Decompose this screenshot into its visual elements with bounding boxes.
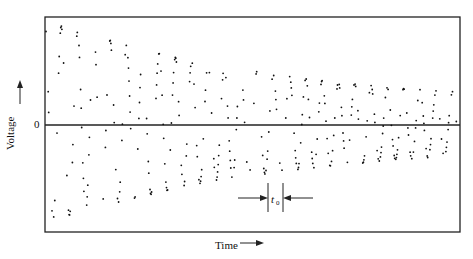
t0-label: t xyxy=(271,193,275,205)
period-marker: t 0 xyxy=(238,183,313,212)
y-axis-arrow-icon xyxy=(17,80,23,104)
t0-subscript: 0 xyxy=(276,199,280,207)
damped-oscillation-chart: t 0 xyxy=(0,0,473,259)
x-axis-arrow-icon xyxy=(240,240,264,246)
y-axis-label: Voltage xyxy=(4,117,16,150)
data-points xyxy=(45,25,457,218)
x-axis-label: Time xyxy=(215,239,238,251)
y-tick-zero: 0 xyxy=(34,118,40,130)
